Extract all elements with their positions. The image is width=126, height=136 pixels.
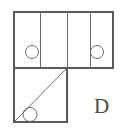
- figure-label-d: D: [94, 96, 109, 117]
- top-row-rectangle: [14, 12, 113, 68]
- geometry-figure: D: [0, 0, 126, 136]
